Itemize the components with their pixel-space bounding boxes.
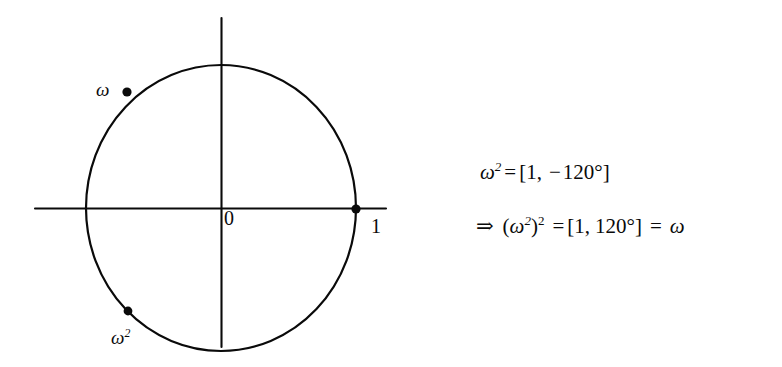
eq1-omega: ω	[480, 160, 495, 184]
omega-label: ω	[96, 80, 109, 99]
origin-label: 0	[224, 208, 234, 228]
eq2-close-paren: )	[531, 214, 538, 238]
real-unit-label: 1	[371, 216, 381, 236]
omega-squared-label-base: ω	[111, 327, 124, 348]
point-one	[351, 204, 360, 213]
equation-omega-squared-polar: ω2=[1,−120°]	[476, 160, 776, 184]
figure-root: ω ω2 0 1 ω2=[1,−120°] ⇒(ω2)2=[1,120°]=ω	[0, 0, 782, 367]
eq1-close-bracket: ]	[603, 160, 610, 184]
eq2-implies-arrow: ⇒	[476, 214, 503, 238]
eq2-equals-2: =	[647, 214, 665, 238]
omega-squared-label: ω2	[111, 328, 130, 347]
eq2-result-omega: ω	[670, 214, 685, 238]
eq2-equals: =	[549, 214, 567, 238]
eq1-angle: 120°	[563, 160, 603, 184]
eq2-omega: ω	[510, 214, 525, 238]
eq1-equals: =	[501, 160, 519, 184]
eq2-comma: ,	[585, 214, 590, 238]
equations-block: ω2=[1,−120°] ⇒(ω2)2=[1,120°]=ω	[476, 160, 776, 238]
omega-squared-label-exponent: 2	[124, 327, 130, 340]
equation-omega-squared-squared: ⇒(ω2)2=[1,120°]=ω	[476, 214, 776, 238]
eq2-close-bracket: ]	[635, 214, 642, 238]
eq1-modulus: 1	[526, 160, 537, 184]
eq2-angle: 120°	[595, 214, 635, 238]
eq2-modulus: 1	[574, 214, 585, 238]
eq2-open-paren: (	[503, 214, 510, 238]
point-omega	[122, 87, 131, 96]
eq2-outer-exponent: 2	[538, 213, 545, 228]
unit-circle-diagram	[0, 0, 430, 367]
eq1-minus-sign: −	[547, 160, 563, 184]
point-omega-squared	[124, 307, 133, 316]
eq1-comma: ,	[537, 160, 542, 184]
